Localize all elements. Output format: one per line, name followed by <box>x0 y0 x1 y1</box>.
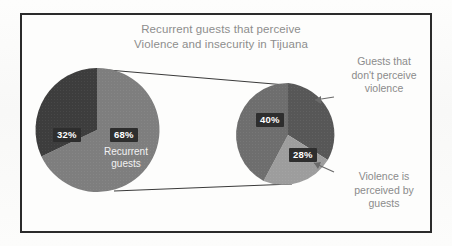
slice-caption-recurrent-guests: Recurrent guests <box>94 146 158 170</box>
slice-caption-line-1: Recurrent <box>94 146 158 158</box>
annotation-no-violence-line-3: violence <box>336 82 432 96</box>
data-label-left-68: 68% <box>110 128 138 142</box>
annotation-no-violence-line-2: don't perceive <box>336 69 432 83</box>
page-title-line-2: Violence and insecurity in Tijuana <box>96 37 346 52</box>
annotation-no-violence: Guests that don't perceive violence <box>336 55 432 96</box>
annotation-violence-perceived: Violence is perceived by guests <box>336 170 432 211</box>
annotation-violence-line-1: Violence is <box>336 170 432 184</box>
page-title-line-1: Recurrent guests that perceive <box>96 22 346 37</box>
data-label-right-40: 40% <box>256 113 284 127</box>
annotation-violence-line-2: perceived by <box>336 184 432 198</box>
data-label-right-28: 28% <box>289 148 317 162</box>
data-label-left-32: 32% <box>53 128 81 142</box>
annotation-no-violence-line-1: Guests that <box>336 55 432 69</box>
annotation-violence-line-3: guests <box>336 197 432 211</box>
slice-caption-line-2: guests <box>94 158 158 170</box>
page-title: Recurrent guests that perceive Violence … <box>96 22 346 52</box>
